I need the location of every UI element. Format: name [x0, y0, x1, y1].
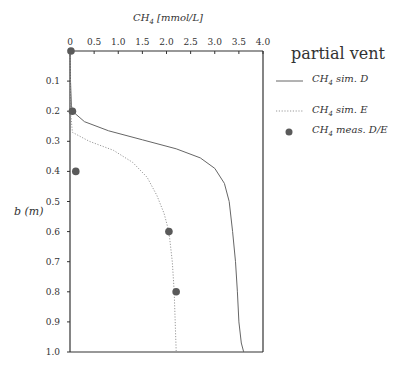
legend-entry-measured: CH4 meas. D/E: [312, 124, 388, 138]
legend-entry-sim-d: CH4 sim. D: [312, 73, 368, 87]
legend-entry-sim-e: CH4 sim. E: [312, 104, 368, 118]
y-tick-label: 1.0: [46, 347, 60, 357]
y-tick-label: 0.3: [46, 136, 60, 146]
x-axis-title: CH4 [mmol/L]: [133, 12, 203, 26]
x-tick-label: 0.5: [87, 37, 101, 47]
series-sim-d-line: [70, 51, 244, 352]
x-tick-label: 1.5: [135, 37, 149, 47]
x-tick-label: 2.0: [159, 37, 173, 47]
measured-data-point: [72, 168, 80, 176]
x-tick-label: 4.0: [256, 37, 270, 47]
y-tick-label: 0.1: [46, 76, 60, 86]
series-sim-e-line: [70, 51, 176, 352]
x-tick-label: 0: [67, 37, 73, 47]
y-tick-label: 0.5: [46, 197, 60, 207]
x-tick-label: 1.0: [111, 37, 125, 47]
x-tick-label: 3.0: [208, 37, 222, 47]
measured-data-point: [172, 288, 180, 296]
y-tick-label: 0.7: [46, 257, 60, 267]
measured-data-point: [67, 47, 75, 55]
x-tick-label: 3.5: [232, 37, 246, 47]
measured-data-point: [165, 228, 173, 236]
y-axis-title: b (m): [14, 205, 44, 218]
measured-data-point: [69, 107, 77, 115]
y-tick-label: 0.4: [46, 166, 60, 176]
y-tick-label: 0.9: [46, 317, 60, 327]
legend-title: partial vent: [291, 44, 385, 63]
y-tick-label: 0.6: [46, 227, 60, 237]
y-tick-label: 0.2: [46, 106, 60, 116]
legend-marker-icon: [286, 129, 293, 136]
x-tick-label: 2.5: [183, 37, 197, 47]
y-tick-label: 0.8: [46, 287, 60, 297]
